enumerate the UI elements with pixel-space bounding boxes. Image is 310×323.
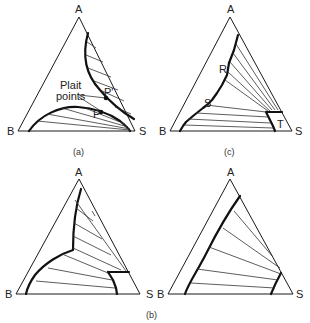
tie-line <box>230 62 272 110</box>
tie-line <box>47 114 130 129</box>
label-s-point: S <box>204 97 211 109</box>
tie-line <box>48 268 112 280</box>
ternary-diagram-figure: P' P Plait points A B S (a) R S T A B S <box>0 0 310 323</box>
tie-line <box>196 113 268 117</box>
vertex-label-b: B <box>159 125 166 137</box>
tie-line <box>184 125 273 128</box>
tie-line <box>37 121 130 130</box>
vertex-label-s: S <box>146 288 153 300</box>
tie-line <box>76 208 93 221</box>
tie-line <box>206 105 266 112</box>
tie-line <box>86 55 103 62</box>
label-p: P <box>93 108 100 120</box>
triangle-outline <box>18 17 135 131</box>
vertex-label-a: A <box>227 3 235 15</box>
label-points: points <box>56 90 86 102</box>
caption-a: (a) <box>73 147 84 157</box>
tie-line <box>74 223 102 239</box>
tie-line <box>73 236 111 255</box>
tie-line <box>188 119 271 123</box>
binodal-curve-right <box>271 273 281 294</box>
label-t: T <box>277 118 284 130</box>
tie-line <box>236 44 278 110</box>
tie-line <box>234 211 273 257</box>
caption-b: (b) <box>146 310 157 320</box>
tie-line <box>73 248 121 270</box>
tie-line <box>92 211 95 216</box>
vertex-label-a: A <box>75 166 83 178</box>
tie-line <box>228 72 270 111</box>
tie-line <box>191 283 275 288</box>
triangle-outline <box>168 179 293 294</box>
label-p-prime: P' <box>104 86 113 98</box>
panel-b-right: A B S <box>157 166 303 300</box>
vertex-label-b: B <box>5 288 12 300</box>
tie-line <box>62 254 108 273</box>
vertex-label-s: S <box>296 288 303 300</box>
binodal-curve-left <box>26 189 81 294</box>
label-r: R <box>219 63 227 75</box>
vertex-label-s: S <box>139 125 146 137</box>
tie-line <box>197 269 278 280</box>
caption-c: (c) <box>224 147 235 157</box>
vertex-label-s: S <box>295 125 302 137</box>
binodal-curve-right <box>108 272 117 294</box>
vertex-label-a: A <box>227 166 235 178</box>
binodal-curve-lower <box>29 107 130 131</box>
tie-line <box>36 281 115 288</box>
tie-line <box>88 68 111 77</box>
vertex-label-b: B <box>157 288 164 300</box>
vertex-label-b: B <box>7 125 14 137</box>
panel-c: R S T A B S (c) <box>159 3 302 157</box>
triangle-outline <box>170 17 292 131</box>
panel-a: P' P Plait points A B S (a) <box>7 3 146 157</box>
tie-line <box>223 228 280 268</box>
vertex-label-a: A <box>75 3 83 15</box>
tie-line <box>209 247 281 274</box>
panel-b-left: A B S <box>5 166 153 300</box>
